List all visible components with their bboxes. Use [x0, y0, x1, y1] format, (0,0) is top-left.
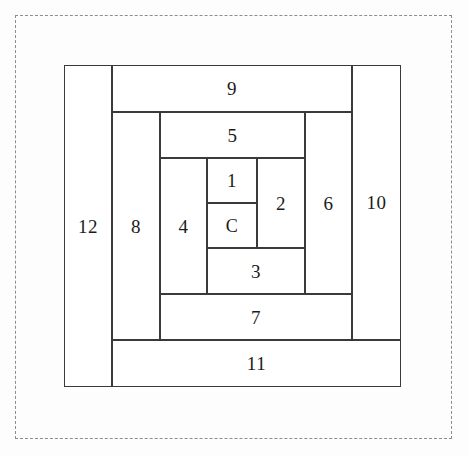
- block-piece-p10: 10: [352, 65, 401, 340]
- block-piece-label: 8: [131, 217, 141, 236]
- block-piece-label: 3: [251, 262, 261, 281]
- block-piece-label: 9: [227, 79, 237, 98]
- block-piece-label: 1: [227, 171, 237, 190]
- block-piece-label: C: [226, 217, 239, 235]
- block-piece-label: 12: [78, 217, 98, 236]
- block-piece-label: 4: [179, 217, 189, 236]
- block-piece-p12: 12: [64, 65, 112, 387]
- log-cabin-block: C123456789101112: [64, 65, 401, 387]
- block-piece-p5: 5: [160, 112, 305, 158]
- block-piece-center: C: [207, 203, 257, 248]
- block-piece-p4: 4: [160, 158, 207, 294]
- block-piece-p1: 1: [207, 158, 257, 203]
- block-piece-p9: 9: [112, 65, 352, 112]
- block-piece-label: 7: [251, 308, 261, 327]
- block-piece-p6: 6: [305, 112, 352, 294]
- block-piece-label: 6: [324, 194, 334, 213]
- block-piece-p3: 3: [207, 248, 305, 294]
- block-piece-label: 11: [247, 354, 266, 373]
- block-piece-label: 10: [367, 193, 387, 212]
- block-piece-p11: 11: [112, 340, 401, 387]
- block-piece-p8: 8: [112, 112, 160, 340]
- block-piece-label: 5: [228, 126, 238, 145]
- block-piece-label: 2: [276, 194, 286, 213]
- block-piece-p2: 2: [257, 158, 305, 248]
- block-piece-p7: 7: [160, 294, 352, 340]
- diagram-canvas: C123456789101112: [0, 0, 469, 456]
